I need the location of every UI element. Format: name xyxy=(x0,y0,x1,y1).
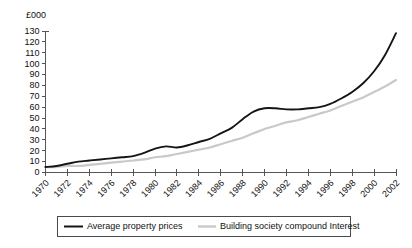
y-tick-label: 60 xyxy=(29,102,39,112)
legend: Average property prices Building society… xyxy=(58,217,361,237)
y-tick-label: 90 xyxy=(29,69,39,79)
y-tick-label: 0 xyxy=(34,167,39,177)
y-tick-label: 120 xyxy=(24,37,39,47)
series-line-average-property-prices xyxy=(46,33,397,167)
x-tick-label: 1996 xyxy=(314,178,335,199)
y-tick-label: 130 xyxy=(24,26,39,36)
y-tick-label: 10 xyxy=(29,156,39,166)
y-tick-label: 20 xyxy=(29,146,39,156)
x-tick-label: 2002 xyxy=(380,178,401,199)
x-tick-label: 1982 xyxy=(161,178,182,199)
x-axis-ticks: 1970197219741976197819801982198419861988… xyxy=(30,169,402,199)
chart-container: £000 0102030405060708090100110120130 197… xyxy=(0,0,412,248)
y-tick-label: 80 xyxy=(29,80,39,90)
series-line-building-society-compound-interest xyxy=(46,80,397,167)
y-tick-label: 50 xyxy=(29,113,39,123)
x-tick-label: 1978 xyxy=(117,178,138,199)
x-tick-label: 1972 xyxy=(52,178,73,199)
line-chart: £000 0102030405060708090100110120130 197… xyxy=(0,0,412,248)
legend-label-building-society-compound-interest: Building society compound Interest xyxy=(220,221,360,231)
x-tick-label: 1970 xyxy=(30,178,51,199)
y-tick-label: 40 xyxy=(29,124,39,134)
y-tick-label: 70 xyxy=(29,91,39,101)
x-tick-label: 1992 xyxy=(271,178,292,199)
y-tick-label: 110 xyxy=(25,48,39,58)
x-tick-label: 1994 xyxy=(293,178,314,199)
y-axis-unit-label: £000 xyxy=(26,10,46,20)
x-tick-label: 2000 xyxy=(358,178,379,199)
x-tick-label: 1986 xyxy=(205,178,226,199)
x-tick-label: 1990 xyxy=(249,178,270,199)
x-tick-label: 1988 xyxy=(227,178,248,199)
x-tick-label: 1974 xyxy=(73,178,94,199)
y-tick-label: 30 xyxy=(29,135,39,145)
x-tick-label: 1980 xyxy=(139,178,160,199)
legend-label-average-property-prices: Average property prices xyxy=(87,221,183,231)
x-tick-label: 1998 xyxy=(336,178,357,199)
x-tick-label: 1984 xyxy=(183,178,204,199)
x-tick-label: 1976 xyxy=(95,178,116,199)
y-tick-label: 100 xyxy=(24,59,39,69)
y-axis-unit-label-group: £000 xyxy=(26,10,46,20)
